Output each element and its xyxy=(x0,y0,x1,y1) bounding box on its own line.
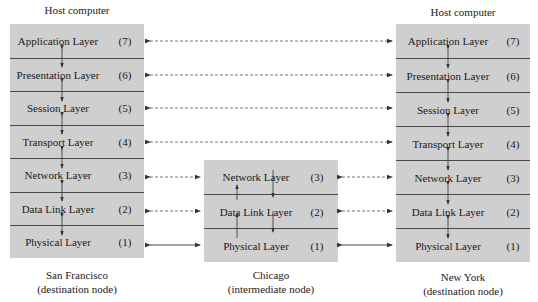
right-node-role: (destination node) xyxy=(396,284,530,298)
left-city-label: San Francisco xyxy=(10,268,144,282)
middle-city-label: Chicago xyxy=(204,268,338,282)
middle-node-caption: Chicago (intermediate node) xyxy=(204,268,338,296)
middle-vertical-arrows xyxy=(237,170,273,238)
left-node-caption: San Francisco (destination node) xyxy=(10,268,144,296)
left-node-role: (destination node) xyxy=(10,282,144,296)
right-city-label: New York xyxy=(396,270,530,284)
middle-node-role: (intermediate node) xyxy=(204,282,338,296)
peer-dashed-arrows xyxy=(150,41,392,211)
connection-arrows xyxy=(0,0,538,302)
right-node-caption: New York (destination node) xyxy=(396,270,530,298)
